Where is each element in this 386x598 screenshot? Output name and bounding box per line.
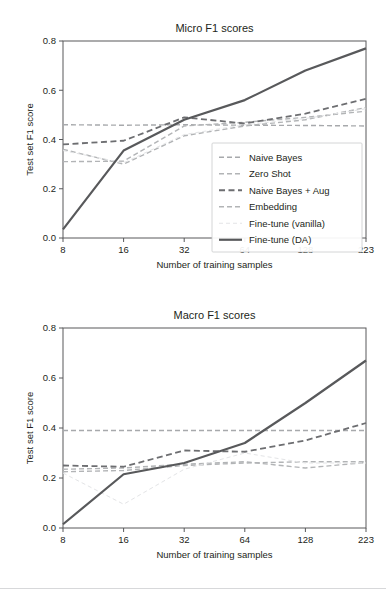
series-line-naive-bayes [63, 125, 366, 126]
legend-label-fine-tune-vanilla: Fine-tune (vanilla) [249, 218, 325, 229]
series-line-fine-tune-da [63, 361, 366, 525]
y-axis-label: Test set F1 score [24, 392, 35, 464]
legend-label-zero-shot: Zero Shot [249, 168, 291, 179]
macro-f1-chart-svg: Macro F1 scores0.00.20.40.60.88163264128… [0, 288, 386, 586]
legend-label-naive-bayes: Naive Bayes [249, 152, 303, 163]
x-tick-label: 16 [118, 534, 129, 545]
page-bottom-rule [0, 588, 386, 589]
series-line-zero-shot [63, 462, 366, 470]
chart-title: Macro F1 scores [174, 309, 256, 321]
x-axis-label: Number of training samples [156, 259, 272, 270]
y-axis-label: Test set F1 score [24, 103, 35, 175]
y-tick-label: 0.2 [43, 472, 56, 483]
x-tick-label: 32 [179, 534, 190, 545]
series-line-naive-bayes-aug [63, 423, 366, 467]
x-tick-label: 8 [60, 534, 65, 545]
chart-panel-micro: Micro F1 scores0.00.20.40.60.88163264128… [0, 0, 386, 295]
y-tick-label: 0.6 [43, 85, 56, 96]
y-tick-label: 0.8 [43, 322, 56, 333]
x-axis-label: Number of training samples [156, 549, 272, 560]
chart-title: Micro F1 scores [175, 22, 254, 34]
x-tick-label: 32 [179, 244, 190, 255]
series-line-naive-bayes-aug [63, 99, 366, 145]
chart-panel-macro: Macro F1 scores0.00.20.40.60.88163264128… [0, 288, 386, 586]
figure-container: Micro F1 scores0.00.20.40.60.88163264128… [0, 0, 386, 598]
plot-area-frame [63, 328, 366, 528]
legend-label-naive-bayes-aug: Naive Bayes + Aug [249, 185, 330, 196]
x-tick-label: 128 [297, 534, 313, 545]
x-tick-label: 8 [60, 244, 65, 255]
y-tick-label: 0.4 [43, 422, 56, 433]
micro-f1-chart-svg: Micro F1 scores0.00.20.40.60.88163264128… [0, 0, 386, 295]
x-tick-label: 64 [240, 534, 251, 545]
series-line-fine-tune-vanilla [63, 453, 366, 504]
legend-label-embedding: Embedding [249, 201, 297, 212]
x-tick-label: 223 [358, 534, 374, 545]
y-tick-label: 0.4 [43, 134, 56, 145]
legend-label-fine-tune-da: Fine-tune (DA) [249, 234, 311, 245]
y-tick-label: 0.2 [43, 183, 56, 194]
x-tick-label: 16 [118, 244, 129, 255]
y-tick-label: 0.8 [43, 35, 56, 46]
y-tick-label: 0.0 [43, 232, 56, 243]
y-tick-label: 0.0 [43, 522, 56, 533]
y-tick-label: 0.6 [43, 372, 56, 383]
